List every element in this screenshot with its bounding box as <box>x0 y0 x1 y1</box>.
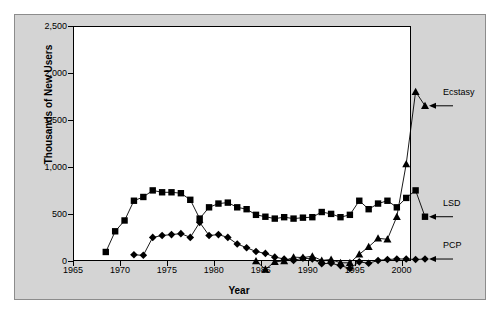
x-tick-mark <box>261 261 262 266</box>
y-tick-label: 1,500 <box>23 116 67 125</box>
y-tick-label: 500 <box>23 210 67 219</box>
y-tick-mark <box>68 73 73 74</box>
y-tick-label: 0 <box>23 257 67 266</box>
callout-label-ecstasy: Ecstasy <box>443 87 475 97</box>
x-tick-mark <box>308 261 309 266</box>
callout-label-lsd: LSD <box>443 198 461 208</box>
x-tick-label: 1980 <box>194 266 234 275</box>
x-tick-label: 1990 <box>288 266 328 275</box>
y-tick-mark <box>68 120 73 121</box>
y-tick-mark <box>68 167 73 168</box>
x-tick-label: 1985 <box>241 266 281 275</box>
x-tick-label: 1965 <box>53 266 93 275</box>
y-tick-mark <box>68 214 73 215</box>
x-tick-mark <box>402 261 403 266</box>
y-tick-label: 2,500 <box>23 22 67 31</box>
x-tick-label: 2000 <box>382 266 422 275</box>
y-tick-mark <box>68 26 73 27</box>
x-tick-mark <box>73 261 74 266</box>
y-axis-title: Thousands of New Users <box>43 25 54 185</box>
x-tick-mark <box>214 261 215 266</box>
x-axis-title: Year <box>159 285 319 296</box>
x-tick-label: 1970 <box>100 266 140 275</box>
plot-area <box>73 26 411 261</box>
x-tick-label: 1975 <box>147 266 187 275</box>
y-tick-label: 1,000 <box>23 163 67 172</box>
callout-label-pcp: PCP <box>443 240 462 250</box>
x-tick-mark <box>120 261 121 266</box>
chart-figure: Thousands of New Users Year 05001,0001,5… <box>14 14 486 300</box>
x-tick-mark <box>167 261 168 266</box>
x-tick-mark <box>355 261 356 266</box>
y-tick-label: 2,000 <box>23 69 67 78</box>
x-tick-label: 1995 <box>335 266 375 275</box>
